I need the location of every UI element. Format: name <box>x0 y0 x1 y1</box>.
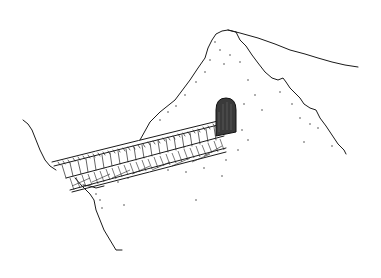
mountain-peak <box>140 30 358 154</box>
sketch-canvas <box>0 0 381 278</box>
tunnel-entrance <box>216 98 236 136</box>
